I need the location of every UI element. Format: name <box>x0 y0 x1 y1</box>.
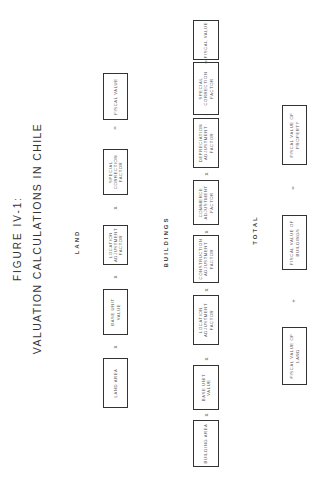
multiply-operator: x <box>203 286 209 294</box>
building-special-correction-factor-box: SPECIAL CORRECTION FACTOR <box>193 62 219 115</box>
rotated-figure-page: FIGURE IV-1: VALUATION CALCULATIONS IN C… <box>0 0 328 477</box>
land-base-unit-value-box: BASE UNIT VALUE <box>103 289 128 335</box>
box-label: DEPRECIATION ADJUSTMENT FACTOR <box>198 119 214 167</box>
box-label: FISCAL VALUE OF BUILDINGS <box>289 216 299 269</box>
box-label: CONSTRUCTION ADJUSTMENT FACTOR <box>198 236 214 282</box>
box-label: LOCATION ADJUSTMENT FACTOR <box>108 226 124 264</box>
land-special-correction-factor-box: SPECIAL CORRECTION FACTOR <box>103 149 128 195</box>
land-area-box: LAND AREA <box>103 358 128 408</box>
multiply-operator: x <box>203 170 209 178</box>
equals-operator: = <box>112 124 118 132</box>
building-base-unit-value-box: BASE UNIT VALUE <box>193 365 219 410</box>
box-label: BUILDING AREA <box>203 424 208 464</box>
depreciation-adjustment-factor-box: DEPRECIATION ADJUSTMENT FACTOR <box>193 118 219 168</box>
box-label: SPECIAL CORRECTION FACTOR <box>198 63 214 114</box>
box-label: FISCAL VALUE OF LAND <box>289 328 299 384</box>
multiply-operator: x <box>203 228 209 236</box>
multiply-operator: x <box>203 411 209 419</box>
box-label: BASE UNIT VALUE <box>201 366 211 409</box>
land-location-adjustment-factor-box: LOCATION ADJUSTMENT FACTOR <box>103 225 128 265</box>
figure-number: FIGURE IV-1: <box>12 0 23 477</box>
box-label: SPECIAL CORRECTION FACTOR <box>108 150 124 194</box>
box-label: LOCATION ADJUSTMENT FACTOR <box>198 296 214 344</box>
box-label: FISCAL VALUE <box>203 22 208 58</box>
box-label: FISCAL VALUE <box>113 78 118 114</box>
buildings-heading: BUILDINGS <box>163 212 169 272</box>
construction-adjustment-factor-box: CONSTRUCTION ADJUSTMENT FACTOR <box>193 235 219 283</box>
figure-title: VALUATION CALCULATIONS IN CHILE <box>31 0 43 477</box>
plus-operator: + <box>290 297 296 305</box>
box-label: FISCAL VALUE OF PROPERTY <box>289 106 299 164</box>
land-heading: LAND <box>74 227 80 257</box>
fiscal-value-of-property-box: FISCAL VALUE OF PROPERTY <box>282 105 307 165</box>
building-fiscal-value-box: FISCAL VALUE <box>193 20 219 60</box>
equals-operator: = <box>290 184 296 192</box>
box-label: COMMERCE ADJUSTMENT FACTOR <box>198 181 214 224</box>
total-heading: TOTAL <box>252 215 258 245</box>
fiscal-value-of-buildings-box: FISCAL VALUE OF BUILDINGS <box>282 215 307 270</box>
fiscal-value-of-land-box: FISCAL VALUE OF LAND <box>282 327 307 385</box>
box-label: LAND AREA <box>113 369 118 398</box>
commerce-adjustment-factor-box: COMMERCE ADJUSTMENT FACTOR <box>193 180 219 225</box>
box-label: BASE UNIT VALUE <box>110 290 120 334</box>
building-location-adjustment-factor-box: LOCATION ADJUSTMENT FACTOR <box>193 295 219 345</box>
multiply-operator: x <box>112 204 118 212</box>
building-area-box: BUILDING AREA <box>193 420 219 467</box>
land-fiscal-value-box: FISCAL VALUE <box>103 73 128 120</box>
multiply-operator: x <box>203 355 209 363</box>
multiply-operator: x <box>112 343 118 351</box>
multiply-operator: x <box>112 273 118 281</box>
